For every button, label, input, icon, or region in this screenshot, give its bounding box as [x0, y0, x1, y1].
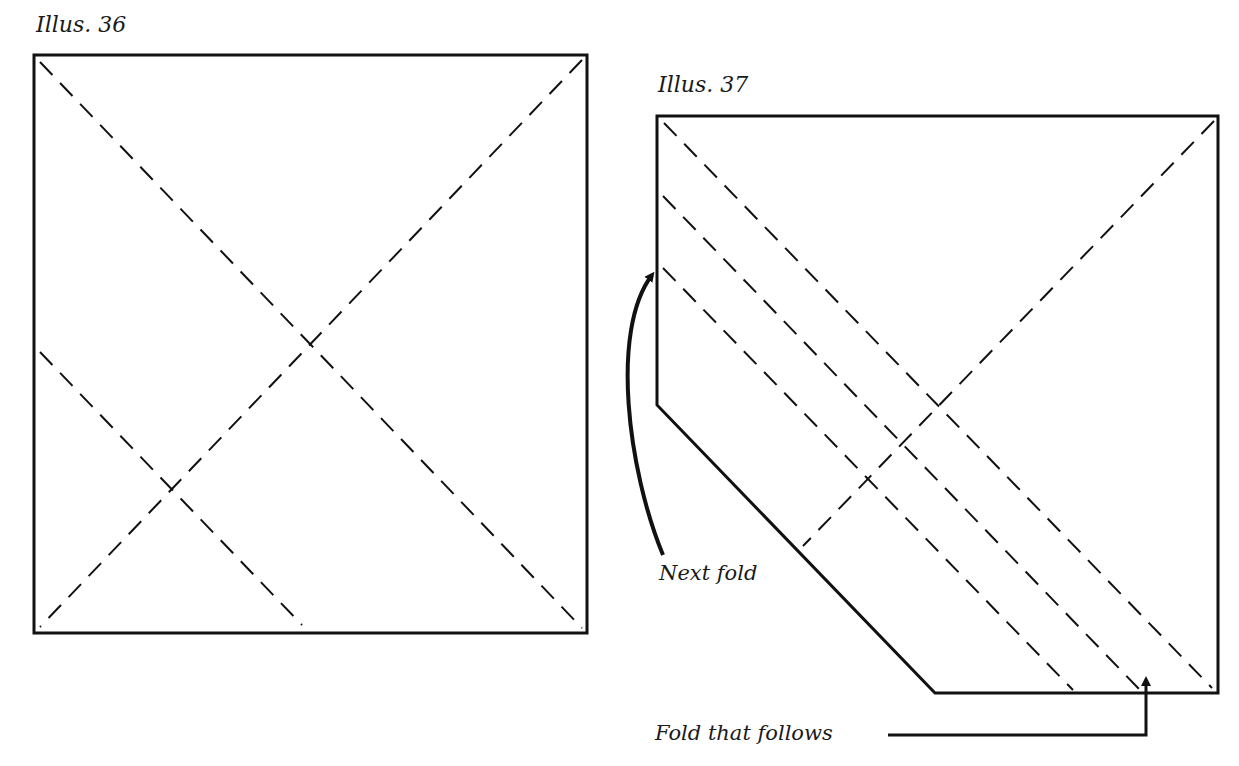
fold-that-follows-label: Fold that follows	[655, 721, 833, 745]
fold-diagrams	[0, 0, 1239, 766]
illus-37-diagonal-fold-2	[803, 121, 1214, 546]
fold-that-follows-arrow	[888, 680, 1146, 735]
next-fold-label: Next fold	[659, 561, 757, 585]
illus-36-corner-fold	[40, 352, 302, 625]
illus-37-diagram	[628, 116, 1218, 735]
illus-36-diagram	[34, 55, 587, 633]
illus-36-diagonal-fold-2	[40, 60, 582, 627]
